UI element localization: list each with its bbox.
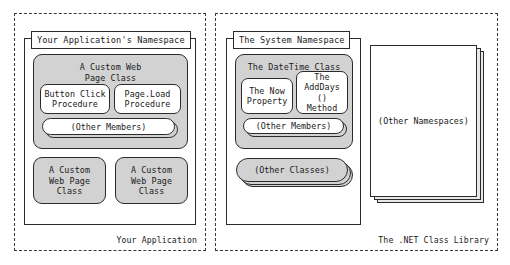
net-class-library-footer-label: The .NET Class Library [378,235,489,245]
custom-web-page-class-3-label: A Custom Web Page Class [116,165,187,197]
other-namespaces-sheet-top: (Other Namespaces) [370,45,477,197]
other-classes-stack-top: (Other Classes) [236,158,348,182]
now-property-box: The Now Property [241,78,293,114]
your-application-namespace-title: Your Application's Namespace [31,31,191,49]
other-members-pill-app: (Other Members) [42,118,175,135]
other-members-pill-system: (Other Members) [243,118,344,134]
namespace-architecture-diagram: Your Application Your Application's Name… [0,0,510,265]
system-namespace-title: The System Namespace [233,31,350,49]
page-load-procedure-box: Page.Load Procedure [114,84,181,114]
custom-web-page-class-title: A Custom Web Page Class [34,62,187,83]
your-application-footer-label: Your Application [117,235,197,245]
custom-web-page-class-3-box: A Custom Web Page Class [115,157,188,204]
adddays-method-box: The AddDays () Method [296,71,348,114]
button-click-procedure-box: Button Click Procedure [40,84,110,114]
custom-web-page-class-2-box: A Custom Web Page Class [33,157,106,204]
custom-web-page-class-2-label: A Custom Web Page Class [34,165,105,197]
